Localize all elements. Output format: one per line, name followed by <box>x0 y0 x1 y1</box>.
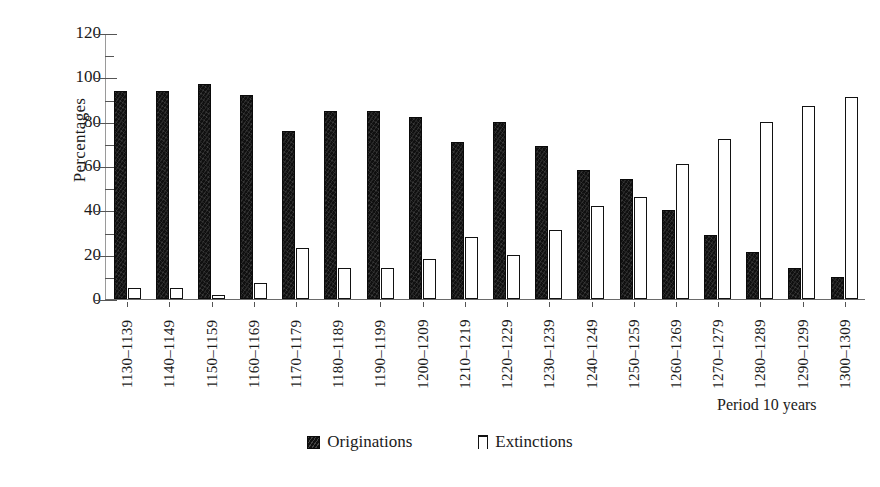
x-tick-label: 1300–1309 <box>836 319 853 388</box>
bar-originations <box>535 146 548 299</box>
bar-originations <box>662 210 675 299</box>
x-tick-label: 1260–1269 <box>667 319 684 388</box>
bar-group <box>401 34 443 299</box>
bar-extinctions <box>170 288 183 299</box>
x-tick-mark <box>296 302 297 307</box>
x-tick-mark <box>254 302 255 307</box>
x-tick-label: 1180–1189 <box>330 320 347 388</box>
legend-item-extinctions: Extinctions <box>478 432 572 452</box>
bar-chart: Percentages 020406080100120 1130–1139114… <box>0 0 880 487</box>
bar-extinctions <box>465 237 478 299</box>
bar-extinctions <box>212 295 225 299</box>
x-tick-mark <box>592 302 593 307</box>
x-tick-label: 1170–1179 <box>287 320 304 388</box>
x-tick-label: 1130–1139 <box>119 320 136 388</box>
x-tick-cell: 1210–1219 <box>444 302 486 402</box>
y-tick-label: 40 <box>55 200 101 220</box>
bar-extinctions <box>549 230 562 299</box>
bar-originations <box>620 179 633 299</box>
x-tick-label: 1150–1159 <box>203 320 220 388</box>
bar-extinctions <box>507 255 520 299</box>
chart-legend: Originations Extinctions <box>0 432 880 452</box>
y-tick-mark <box>95 300 117 301</box>
x-tick-mark <box>634 302 635 307</box>
y-tick-label: 20 <box>55 245 101 265</box>
bar-originations <box>114 91 127 299</box>
x-tick-mark <box>465 302 466 307</box>
x-tick-cell: 1300–1309 <box>824 302 866 402</box>
x-tick-label: 1290–1299 <box>794 319 811 388</box>
outlined-square-swatch-icon <box>478 436 488 449</box>
bar-group <box>823 34 865 299</box>
x-tick-cell: 1240–1249 <box>570 302 612 402</box>
x-tick-cell: 1260–1269 <box>655 302 697 402</box>
plot-area: 020406080100120 <box>105 34 865 300</box>
x-tick-mark <box>507 302 508 307</box>
bar-group <box>190 34 232 299</box>
x-tick-mark <box>127 302 128 307</box>
bar-extinctions <box>845 97 858 299</box>
x-tick-mark <box>169 302 170 307</box>
bar-originations <box>451 142 464 299</box>
x-tick-label: 1220–1229 <box>499 319 516 388</box>
bar-group <box>528 34 570 299</box>
bar-group <box>696 34 738 299</box>
x-tick-label: 1140–1149 <box>161 320 178 388</box>
bar-extinctions <box>760 122 773 299</box>
bar-extinctions <box>254 283 267 299</box>
x-tick-label: 1280–1289 <box>752 319 769 388</box>
x-tick-cell: 1200–1209 <box>402 302 444 402</box>
y-tick-label: 80 <box>55 112 101 132</box>
x-tick-cell: 1220–1229 <box>486 302 528 402</box>
x-tick-mark <box>803 302 804 307</box>
x-tick-cell: 1230–1239 <box>528 302 570 402</box>
x-tick-cell: 1280–1289 <box>739 302 781 402</box>
x-tick-mark <box>718 302 719 307</box>
legend-label-originations: Originations <box>327 432 412 452</box>
x-axis-line <box>105 299 865 300</box>
bar-extinctions <box>718 139 731 299</box>
bar-originations <box>704 235 717 299</box>
bar-group <box>781 34 823 299</box>
x-tick-cell: 1180–1189 <box>317 302 359 402</box>
bar-group <box>570 34 612 299</box>
x-tick-cell: 1290–1299 <box>782 302 824 402</box>
bar-group <box>654 34 696 299</box>
legend-item-originations: Originations <box>307 432 412 452</box>
bar-extinctions <box>128 288 141 299</box>
x-tick-cell: 1270–1279 <box>697 302 739 402</box>
x-tick-mark <box>380 302 381 307</box>
bar-group <box>612 34 654 299</box>
x-tick-label: 1240–1249 <box>583 319 600 388</box>
bar-group <box>106 34 148 299</box>
x-tick-mark <box>760 302 761 307</box>
bar-originations <box>788 268 801 299</box>
bar-extinctions <box>338 268 351 299</box>
bar-originations <box>282 131 295 299</box>
bar-originations <box>746 252 759 299</box>
legend-label-extinctions: Extinctions <box>495 432 572 452</box>
x-axis-title: Period 10 years <box>717 396 817 414</box>
bar-group <box>443 34 485 299</box>
x-tick-mark <box>845 302 846 307</box>
bar-extinctions <box>802 106 815 299</box>
bar-originations <box>493 122 506 299</box>
x-tick-label: 1230–1239 <box>541 319 558 388</box>
bar-group <box>275 34 317 299</box>
y-tick-label: 100 <box>55 67 101 87</box>
y-axis-title: Percentages <box>70 70 90 210</box>
x-axis-tick-labels: 1130–11391140–11491150–11591160–11691170… <box>106 302 866 402</box>
bar-group <box>739 34 781 299</box>
x-tick-mark <box>549 302 550 307</box>
bar-originations <box>831 277 844 299</box>
x-tick-cell: 1170–1179 <box>275 302 317 402</box>
x-tick-label: 1270–1279 <box>710 319 727 388</box>
bar-originations <box>577 170 590 299</box>
x-tick-cell: 1190–1199 <box>359 302 401 402</box>
bar-originations <box>240 95 253 299</box>
y-tick-label: 60 <box>55 156 101 176</box>
bar-originations <box>198 84 211 299</box>
bar-group <box>359 34 401 299</box>
y-tick-label: 0 <box>55 289 101 309</box>
x-tick-mark <box>338 302 339 307</box>
